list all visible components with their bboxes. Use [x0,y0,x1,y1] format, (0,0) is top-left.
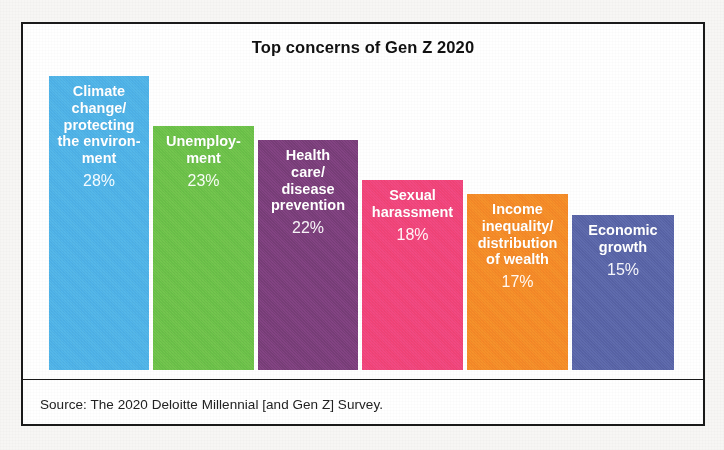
bar-chart-plot-area: Climate change/ protecting the environ- … [23,24,703,424]
source-divider [23,379,703,381]
bar-value-label: 15% [572,261,674,279]
bar-category-label: Climate change/ protecting the environ- … [49,76,149,167]
bar-category-label: Unemploy- ment [153,126,254,167]
bar-value-label: 23% [153,172,254,190]
bar-value-label: 18% [362,226,463,244]
chart-figure: Top concerns of Gen Z 2020 Climate chang… [21,22,705,426]
bar-value-label: 22% [258,219,358,237]
bar-category-label: Health care/ disease prevention [258,140,358,214]
bar-value-label: 28% [49,172,149,190]
chart-bar: Economic growth15% [572,215,674,370]
chart-bar: Sexual harassment18% [362,180,463,370]
bar-category-label: Income inequality/ distribution of wealt… [467,194,568,268]
bar-category-label: Economic growth [572,215,674,256]
source-note: Source: The 2020 Deloitte Millennial [an… [40,397,383,412]
bar-category-label: Sexual harassment [362,180,463,221]
chart-bar: Income inequality/ distribution of wealt… [467,194,568,370]
chart-bar: Health care/ disease prevention22% [258,140,358,370]
bar-value-label: 17% [467,273,568,291]
scanned-page: Top concerns of Gen Z 2020 Climate chang… [0,0,724,450]
chart-bar: Unemploy- ment23% [153,126,254,370]
chart-bar: Climate change/ protecting the environ- … [49,76,149,370]
